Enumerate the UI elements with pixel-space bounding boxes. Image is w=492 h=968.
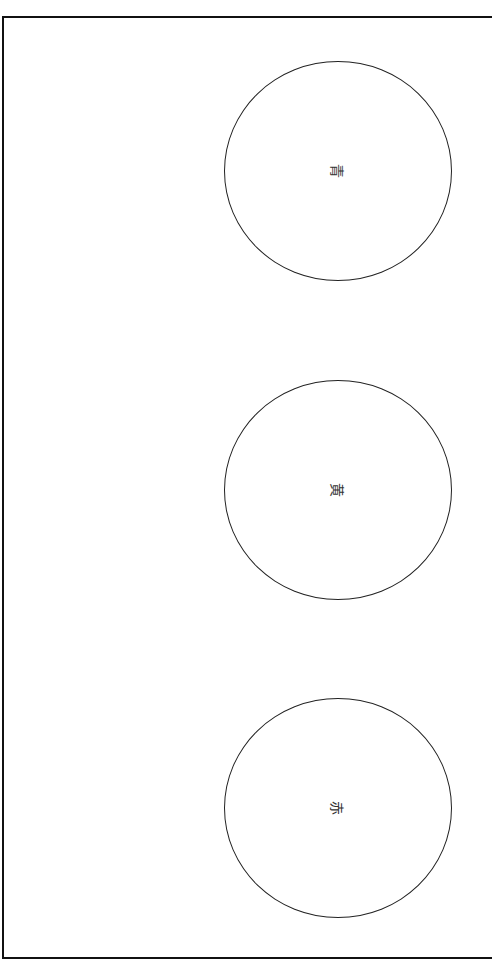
circle-yellow: 黄 [224,380,452,600]
circle-label-yellow: 黄 [328,483,348,497]
circle-red: 赤 [224,698,452,918]
circle-label-blue: 青 [328,164,348,178]
circle-blue: 青 [224,61,452,281]
circle-label-red: 赤 [328,801,348,815]
